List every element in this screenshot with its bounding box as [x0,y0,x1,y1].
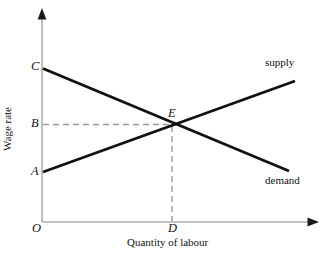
point-label-e: E [168,107,176,120]
y-axis-title: Wage rate [0,99,14,159]
point-label-a: A [31,165,39,178]
y-axis-title-text: Wage rate [2,107,13,151]
x-axis-arrowhead [308,218,320,227]
point-label-b: B [31,117,39,130]
demand-curve [43,69,289,172]
y-axis-arrowhead [38,8,47,20]
supply-demand-figure: C B A E D O supply demand Wage rate Quan… [0,0,326,256]
x-axis-title: Quantity of labour [127,237,208,248]
point-label-d: D [168,222,177,235]
origin-label: O [32,222,41,235]
demand-curve-label: demand [265,175,300,186]
plot-area [0,0,326,256]
supply-curve-label: supply [265,57,294,68]
point-label-c: C [31,60,39,73]
